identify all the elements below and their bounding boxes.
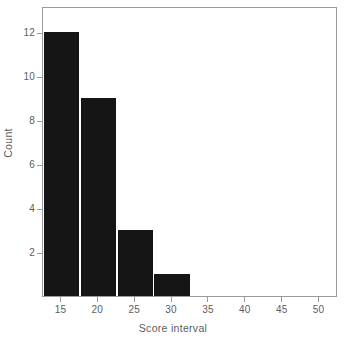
x-axis-tick-label: 45 <box>276 304 288 315</box>
y-axis-tick-label: 4 <box>29 203 37 215</box>
y-axis-tick-label: 10 <box>23 71 37 83</box>
x-axis-tick-label: 40 <box>239 304 251 315</box>
x-axis-tick-mark <box>97 297 98 302</box>
y-axis-tick-label: 12 <box>23 27 37 39</box>
y-axis-tick: 12 <box>23 27 42 39</box>
y-axis-tick: 8 <box>29 115 42 127</box>
y-axis-tick: 10 <box>23 71 42 83</box>
y-axis-tick: 2 <box>29 247 42 259</box>
x-axis-tick-mark <box>318 297 319 302</box>
x-axis-tick: 40 <box>230 297 260 315</box>
x-axis-tick: 15 <box>45 297 75 315</box>
x-axis-tick-label: 15 <box>55 304 67 315</box>
x-axis-tick-label: 30 <box>165 304 177 315</box>
y-axis-tick: 4 <box>29 203 42 215</box>
x-axis-tick: 35 <box>193 297 223 315</box>
x-axis-tick-mark <box>60 297 61 302</box>
x-axis-tick-mark <box>281 297 282 302</box>
bar <box>44 32 79 296</box>
y-axis-tick-label: 8 <box>29 115 37 127</box>
x-axis-tick: 20 <box>82 297 112 315</box>
x-axis-tick-label: 35 <box>202 304 214 315</box>
x-axis-tick-mark <box>207 297 208 302</box>
bars-layer <box>43 8 336 296</box>
x-axis-tick-label: 25 <box>128 304 140 315</box>
y-axis-tick-label: 2 <box>29 247 37 259</box>
bar <box>154 274 189 296</box>
x-axis-tick: 50 <box>304 297 334 315</box>
x-axis-tick: 45 <box>267 297 297 315</box>
x-axis-tick-mark <box>244 297 245 302</box>
x-axis-tick-label: 50 <box>313 304 325 315</box>
y-axis-tick-label: 6 <box>29 159 37 171</box>
x-axis-tick-mark <box>134 297 135 302</box>
x-axis-title: Score interval <box>0 322 346 334</box>
histogram-chart: 24681012 Count 1520253035404550 Score in… <box>0 0 346 342</box>
bar <box>81 98 116 296</box>
x-axis-tick-label: 20 <box>92 304 104 315</box>
x-axis-tick: 25 <box>119 297 149 315</box>
bar <box>118 230 153 296</box>
plot-area <box>42 7 337 297</box>
y-axis-tick: 6 <box>29 159 42 171</box>
x-axis-tick-mark <box>171 297 172 302</box>
x-axis-tick: 30 <box>156 297 186 315</box>
y-axis-title: Count <box>2 113 14 173</box>
